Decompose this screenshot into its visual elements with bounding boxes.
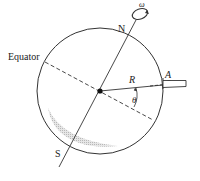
label-north: N	[118, 23, 125, 34]
point-a-plate	[163, 81, 186, 88]
label-omega: ω	[139, 0, 145, 9]
rotating-earth-diagram: ω N Equator R θ A S	[0, 0, 200, 181]
label-theta: θ	[132, 95, 137, 105]
label-point-a: A	[164, 69, 172, 80]
label-radius: R	[128, 74, 135, 85]
label-equator: Equator	[8, 51, 40, 62]
label-south: S	[55, 148, 61, 159]
center-point	[97, 88, 102, 93]
omega-arrowhead	[145, 10, 149, 14]
radius-line	[100, 85, 163, 91]
shading-crescent	[48, 108, 118, 147]
